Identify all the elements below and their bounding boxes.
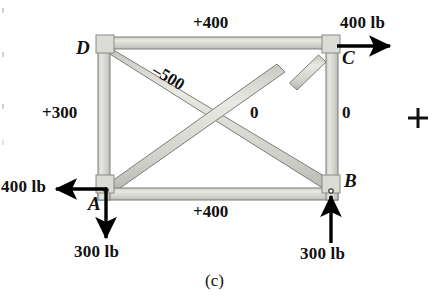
member-force-bottom-chord: +400 [193, 203, 228, 220]
member-force-right-chord: 0 [342, 104, 351, 121]
truss-figure: D C A B +400 +400 +300 0 0 –500 400 lb 4… [0, 0, 443, 298]
member-top-chord-DC [98, 37, 338, 49]
load-label-at-A-vertical: 300 lb [74, 243, 119, 260]
joint-label-C: C [342, 48, 355, 67]
load-label-reaction-at-B: 300 lb [300, 245, 345, 262]
joint-gusset-C [322, 35, 340, 53]
member-force-left-chord: +300 [42, 104, 77, 121]
load-label-at-A: 400 lb [1, 178, 46, 195]
member-diagonal-AC-stub [290, 55, 327, 90]
scan-artifact [2, 52, 4, 57]
scan-artifact [2, 140, 4, 145]
truss-diagram-svg [0, 0, 443, 298]
member-force-diagonal-AC: 0 [250, 104, 259, 121]
load-label-at-C: 400 lb [340, 14, 385, 31]
member-bottom-chord-AB [98, 188, 338, 200]
joint-label-B: B [344, 171, 357, 190]
joint-label-D: D [76, 38, 90, 57]
scan-artifact [2, 8, 4, 13]
pin-circle-B [329, 189, 333, 193]
member-force-top-chord: +400 [193, 14, 228, 31]
scan-artifact [2, 104, 4, 109]
registration-plus-icon [408, 108, 428, 128]
joint-label-A: A [88, 194, 101, 213]
figure-caption: (c) [205, 272, 224, 289]
joint-gusset-D [96, 35, 114, 53]
member-diagonal-AC [105, 64, 285, 193]
